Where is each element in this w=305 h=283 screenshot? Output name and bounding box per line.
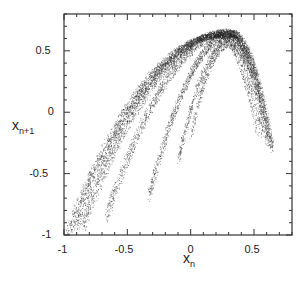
y-axis-title-main: x xyxy=(12,117,19,133)
y-tick-label: 0.5 xyxy=(35,44,50,56)
attractor-points xyxy=(66,29,274,234)
x-axis-title: xn xyxy=(183,250,195,269)
x-tick-label: -1 xyxy=(58,243,68,255)
y-tick-label: -1 xyxy=(42,228,52,240)
y-tick-label: 0 xyxy=(48,105,54,117)
y-axis-title: xn+1 xyxy=(12,117,34,136)
scatter-chart xyxy=(0,0,305,283)
x-axis-title-sub: n xyxy=(190,259,195,269)
y-axis-title-sub: n+1 xyxy=(19,126,34,136)
data-points xyxy=(66,29,274,234)
y-tick-label: -0.5 xyxy=(29,167,48,179)
x-tick-label: 0.5 xyxy=(244,243,259,255)
x-tick-label: -0.5 xyxy=(115,243,134,255)
x-axis-title-main: x xyxy=(183,250,190,266)
